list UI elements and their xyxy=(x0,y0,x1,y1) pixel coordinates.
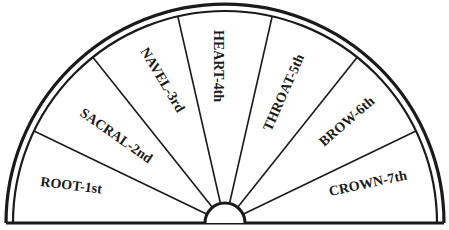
sector-label-brow: BROW-6th xyxy=(316,93,377,149)
sector-label-root: ROOT-1st xyxy=(40,174,103,196)
chakra-semicircle-diagram: ROOT-1st SACRAL-2nd NAVEL-3rd HEART-4th … xyxy=(0,0,449,230)
sector-divider xyxy=(230,16,273,203)
sector-label-navel: NAVEL-3rd xyxy=(137,45,187,115)
sector-label-heart: HEART-4th xyxy=(211,30,226,102)
sector-label-crown: CROWN-7th xyxy=(328,168,409,199)
sector-label-throat: THROAT-5th xyxy=(260,52,307,134)
